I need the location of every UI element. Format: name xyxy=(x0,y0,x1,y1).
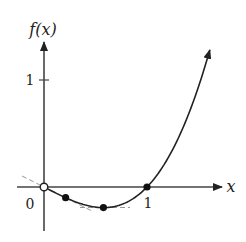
y-tick-1-label: 1 xyxy=(26,72,35,88)
x-tick-1-label: 1 xyxy=(144,195,153,211)
x-axis-label: x xyxy=(226,177,235,196)
point-marker xyxy=(62,194,69,201)
origin-label: 0 xyxy=(26,196,35,212)
function-graph: f(x) x 0 1 1 xyxy=(0,0,246,242)
function-curve xyxy=(44,50,210,208)
open-point-marker xyxy=(40,183,48,191)
point-marker xyxy=(143,183,150,190)
y-axis-label: f(x) xyxy=(28,20,56,39)
point-marker xyxy=(100,204,107,211)
